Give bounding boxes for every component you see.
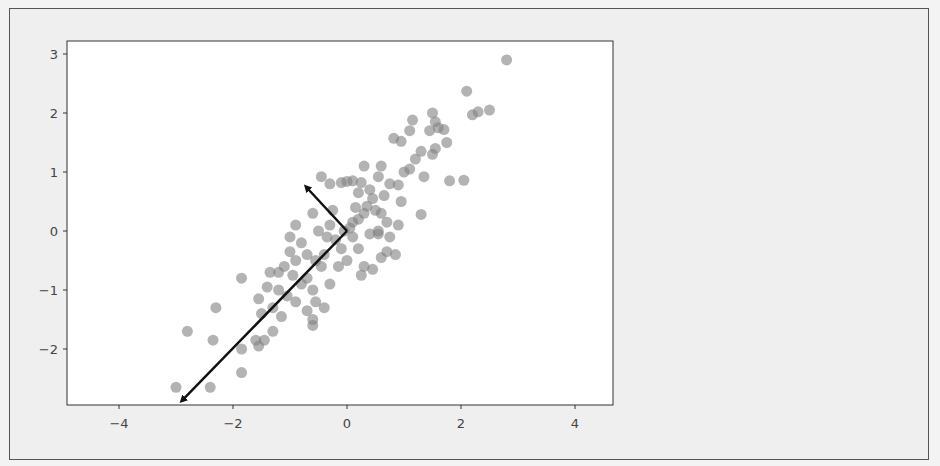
data-point bbox=[307, 208, 318, 219]
data-point bbox=[350, 202, 361, 213]
data-point bbox=[359, 161, 370, 172]
data-point bbox=[307, 285, 318, 296]
data-point bbox=[410, 154, 421, 165]
x-tick-label: −4 bbox=[109, 416, 128, 431]
data-point bbox=[333, 261, 344, 272]
data-point bbox=[441, 137, 452, 148]
x-tick-label: 4 bbox=[571, 416, 579, 431]
data-point bbox=[273, 285, 284, 296]
x-tick-label: 0 bbox=[343, 416, 351, 431]
data-point bbox=[444, 175, 455, 186]
data-point bbox=[296, 237, 307, 248]
data-point bbox=[393, 179, 404, 190]
data-point bbox=[171, 382, 182, 393]
data-point bbox=[265, 267, 276, 278]
data-point bbox=[253, 341, 264, 352]
x-tick-label: −2 bbox=[223, 416, 242, 431]
data-point bbox=[267, 326, 278, 337]
data-point bbox=[458, 175, 469, 186]
y-tick-label: 0 bbox=[50, 224, 58, 239]
data-point bbox=[336, 177, 347, 188]
data-point bbox=[210, 302, 221, 313]
x-tick-label: 2 bbox=[457, 416, 465, 431]
data-point bbox=[399, 167, 410, 178]
data-point bbox=[313, 226, 324, 237]
data-point bbox=[438, 124, 449, 135]
data-point bbox=[353, 243, 364, 254]
data-point bbox=[388, 133, 399, 144]
data-point bbox=[290, 220, 301, 231]
data-point bbox=[418, 171, 429, 182]
data-point bbox=[316, 171, 327, 182]
data-point bbox=[208, 335, 219, 346]
data-point bbox=[324, 220, 335, 231]
data-point bbox=[356, 270, 367, 281]
data-point bbox=[484, 105, 495, 116]
data-point bbox=[407, 115, 418, 126]
data-point bbox=[347, 231, 358, 242]
data-point bbox=[427, 149, 438, 160]
data-point bbox=[367, 264, 378, 275]
data-point bbox=[324, 178, 335, 189]
y-tick-label: 3 bbox=[50, 47, 58, 62]
y-tick-label: 1 bbox=[50, 165, 58, 180]
data-point bbox=[424, 125, 435, 136]
data-point bbox=[393, 220, 404, 231]
y-tick-label: −2 bbox=[39, 342, 58, 357]
data-point bbox=[319, 302, 330, 313]
y-tick-label: −1 bbox=[39, 283, 58, 298]
data-point bbox=[324, 279, 335, 290]
data-point bbox=[285, 231, 296, 242]
data-point bbox=[461, 86, 472, 97]
data-point bbox=[307, 320, 318, 331]
data-point bbox=[416, 209, 427, 220]
data-point bbox=[262, 282, 273, 293]
data-point bbox=[381, 217, 392, 228]
data-point bbox=[373, 171, 384, 182]
data-point bbox=[236, 367, 247, 378]
y-axis-ticks: 3210−1−2 bbox=[39, 47, 67, 357]
scatter-plot: −4−2024 3210−1−2 bbox=[0, 0, 940, 466]
data-point bbox=[501, 54, 512, 65]
data-point bbox=[236, 273, 247, 284]
data-point bbox=[236, 344, 247, 355]
data-point bbox=[353, 187, 364, 198]
data-point bbox=[376, 161, 387, 172]
data-point bbox=[379, 190, 390, 201]
data-point bbox=[396, 196, 407, 207]
data-point bbox=[404, 125, 415, 136]
data-point bbox=[467, 109, 478, 120]
data-point bbox=[182, 326, 193, 337]
x-axis-ticks: −4−2024 bbox=[109, 405, 579, 431]
data-point bbox=[373, 226, 384, 237]
y-tick-label: 2 bbox=[50, 106, 58, 121]
data-point bbox=[205, 382, 216, 393]
data-point bbox=[285, 246, 296, 257]
data-point bbox=[384, 231, 395, 242]
data-point bbox=[253, 293, 264, 304]
data-point bbox=[276, 311, 287, 322]
data-point bbox=[376, 252, 387, 263]
data-point bbox=[287, 270, 298, 281]
